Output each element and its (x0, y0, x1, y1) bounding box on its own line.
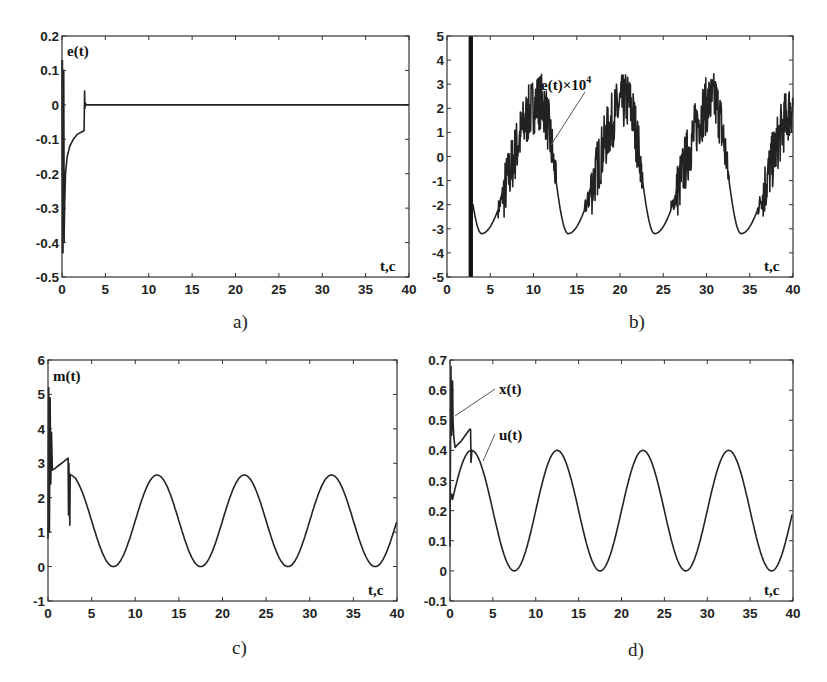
y-tick-label: 0.2 (428, 504, 447, 519)
u-curve (450, 450, 792, 571)
x-tick-label: 10 (526, 282, 541, 297)
x-tick-label: 30 (302, 606, 317, 621)
x-tick-label: 30 (315, 282, 330, 297)
panel-a-ticks: 0510152025303540-0.5-0.4-0.3-0.2-0.100.1… (36, 29, 417, 297)
panel-c-ylabel: m(t) (53, 368, 80, 385)
y-tick-label: -4 (432, 246, 444, 261)
y-tick-label: 1 (436, 125, 444, 140)
y-tick-label: -5 (432, 270, 444, 285)
y-tick-label: 5 (436, 29, 444, 44)
x-tick-label: 15 (571, 606, 587, 621)
y-tick-label: 0 (37, 560, 45, 575)
panel-c-caption: c) (232, 637, 247, 659)
x-tick-label: 15 (171, 606, 187, 621)
x-tick-label: 10 (141, 282, 156, 297)
y-tick-label: -1 (33, 594, 45, 609)
m-curve (70, 475, 396, 567)
panel-c-frame (48, 360, 397, 601)
y-tick-label: -0.1 (36, 132, 60, 147)
panel-b-ticks: 0510152025303540-5-4-3-2-1012345 (432, 29, 801, 297)
panel-c-ticks: 0510152025303540-10123456 (33, 353, 405, 621)
x-tick-label: 5 (489, 606, 497, 621)
x-tick-label: 35 (358, 282, 374, 297)
panel-b-caption: b) (629, 311, 645, 333)
y-tick-label: 0 (51, 98, 59, 113)
x-tick-label: 35 (742, 282, 758, 297)
panel-d-xu-plot: 0510152025303540-0.100.10.20.30.40.50.60… (424, 353, 801, 661)
y-tick-label: -0.1 (424, 594, 448, 609)
y-tick-label: 0.6 (428, 383, 447, 398)
x-tick-label: 20 (215, 606, 230, 621)
panel-b-frame (447, 36, 793, 277)
y-tick-label: 0.7 (428, 353, 447, 368)
y-tick-label: 0.1 (428, 534, 447, 549)
x-tick-label: 30 (700, 606, 715, 621)
y-tick-label: 0.2 (40, 29, 59, 44)
x-tick-label: 30 (699, 282, 714, 297)
panel-b-scaled-error-plot: 0510152025303540-5-4-3-2-1012345 e(t)×10… (432, 29, 801, 333)
x-tick-label: 0 (44, 606, 52, 621)
y-tick-label: 6 (37, 353, 45, 368)
y-tick-label: 0 (436, 150, 444, 165)
x-tick-label: 25 (656, 282, 672, 297)
x-tick-label: 40 (785, 606, 800, 621)
panel-d-x-leader (455, 389, 495, 416)
x-tick-label: 35 (346, 606, 362, 621)
x-tick-label: 35 (743, 606, 759, 621)
x-tick-label: 25 (271, 282, 287, 297)
y-tick-label: 5 (37, 387, 45, 402)
panel-c-xlabel: t,c (368, 582, 384, 598)
panel-d-x-annotation: x(t) (499, 381, 522, 398)
x-tick-label: 20 (228, 282, 243, 297)
y-tick-label: 2 (37, 491, 45, 506)
panel-b-curves (469, 36, 793, 277)
x-tick-label: 25 (657, 606, 673, 621)
y-tick-label: -0.2 (36, 167, 59, 182)
y-tick-label: 3 (436, 77, 444, 92)
x-tick-label: 40 (389, 606, 404, 621)
x-tick-label: 0 (58, 282, 66, 297)
y-tick-label: 0.4 (428, 443, 447, 458)
x-tick-label: 20 (612, 282, 627, 297)
panel-a-xlabel: t,c (380, 258, 396, 274)
x-tick-label: 40 (401, 282, 416, 297)
x-tick-label: 10 (528, 606, 543, 621)
y-tick-label: 0.5 (428, 413, 447, 428)
y-tick-label: -3 (432, 222, 444, 237)
panel-a-frame (62, 36, 409, 277)
y-tick-label: 4 (37, 422, 45, 437)
panel-d-u-annotation: u(t) (499, 427, 522, 444)
y-tick-label: 0 (439, 564, 447, 579)
e-scaled-curve (473, 74, 793, 234)
panel-c-m-plot: 0510152025303540-10123456 m(t) t,c c) (33, 353, 405, 659)
x-curve (450, 366, 472, 547)
y-tick-label: -0.4 (36, 236, 60, 251)
e-saturated-band (469, 36, 473, 277)
panel-b-annotation-leader (551, 92, 585, 145)
panel-a-error-plot: 0510152025303540-0.5-0.4-0.3-0.2-0.100.1… (36, 29, 417, 333)
m-transient (48, 388, 70, 540)
y-tick-label: -0.3 (36, 201, 60, 216)
x-tick-label: 15 (185, 282, 201, 297)
y-tick-label: -1 (432, 174, 444, 189)
x-tick-label: 25 (259, 606, 275, 621)
x-tick-label: 0 (443, 282, 451, 297)
y-tick-label: -0.5 (36, 270, 60, 285)
y-tick-label: 1 (37, 525, 45, 540)
x-tick-label: 5 (486, 282, 494, 297)
x-tick-label: 20 (614, 606, 629, 621)
panel-c-curves (48, 388, 397, 567)
panel-a-ylabel: e(t) (67, 43, 89, 60)
y-tick-label: 2 (436, 101, 444, 116)
panel-b-annotation: e(t)×104 (541, 74, 591, 94)
panel-a-curves (62, 60, 409, 253)
x-tick-label: 5 (88, 606, 96, 621)
y-tick-label: 3 (37, 456, 45, 471)
panel-a-caption: a) (233, 311, 248, 333)
x-tick-label: 10 (128, 606, 143, 621)
x-tick-label: 40 (785, 282, 800, 297)
panel-d-u-leader (483, 434, 495, 461)
x-tick-label: 0 (446, 606, 454, 621)
panel-d-caption: d) (628, 639, 644, 661)
e-curve (62, 60, 409, 253)
